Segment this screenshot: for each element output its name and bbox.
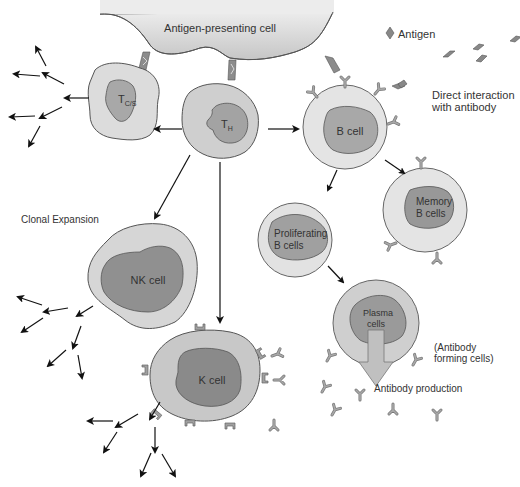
nk-cell-label: NK cell bbox=[131, 274, 166, 286]
apc-label: Antigen-presenting cell bbox=[164, 22, 276, 34]
memory-b-label-1: Memory bbox=[416, 196, 452, 208]
antibody-forming-label-2: forming cells) bbox=[434, 353, 493, 365]
k-cell-label: K cell bbox=[199, 374, 226, 386]
plasma-cells bbox=[333, 280, 419, 386]
antigen-legend-icon bbox=[386, 27, 394, 39]
direct-interaction-label-1: Direct interaction bbox=[432, 89, 515, 101]
memory-b-label-2: B cells bbox=[416, 208, 445, 220]
plasma-label-2: cells bbox=[367, 318, 385, 330]
direct-interaction-label-2: with antibody bbox=[432, 101, 496, 113]
antibody-production-label: Antibody production bbox=[374, 383, 462, 395]
free-antigens bbox=[392, 36, 520, 89]
th-label-main: T bbox=[221, 118, 228, 130]
proliferating-b-label-1: Proliferating bbox=[274, 228, 327, 240]
antigen-legend-label: Antigen bbox=[398, 28, 435, 40]
th-label-sub: H bbox=[228, 125, 233, 132]
tcs-effector-arrows bbox=[10, 47, 64, 146]
th-label: TH bbox=[221, 118, 233, 135]
b-cell-label: B cell bbox=[337, 125, 364, 137]
immune-response-diagram bbox=[0, 0, 520, 487]
proliferating-b-label-2: B cells bbox=[274, 240, 303, 252]
k-effector-arrows bbox=[88, 402, 175, 476]
tcs-label-main: T bbox=[118, 93, 125, 105]
clonal-expansion-label: Clonal Expansion bbox=[21, 214, 99, 226]
tcs-label-sub: C/S bbox=[125, 100, 137, 107]
tcs-label: TC/S bbox=[118, 93, 136, 110]
nk-effector-arrows bbox=[18, 297, 93, 378]
